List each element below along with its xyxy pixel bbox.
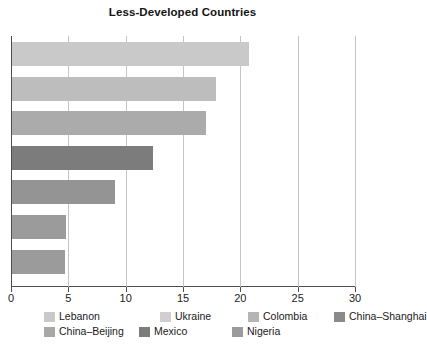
legend-swatch-icon: [160, 312, 171, 322]
bar: [12, 146, 153, 170]
bar: [12, 250, 65, 274]
legend-row: China–BeijingMexicoNigeria: [44, 326, 362, 341]
gridline: [183, 36, 184, 287]
legend-item[interactable]: Ukraine: [160, 311, 211, 322]
legend-label: China–Beijing: [59, 326, 124, 337]
legend-label: Mexico: [154, 326, 187, 337]
legend-swatch-icon: [232, 327, 243, 337]
legend-item[interactable]: Colombia: [248, 311, 307, 322]
legend-label: Lebanon: [59, 311, 100, 322]
bar: [12, 77, 216, 101]
legend-item[interactable]: Mexico: [139, 326, 187, 337]
x-axis-tick-label: 30: [349, 292, 361, 304]
legend-label: China–Shanghai: [349, 311, 427, 322]
x-axis-tick-label: 10: [120, 292, 132, 304]
gridline: [298, 36, 299, 287]
legend-swatch-icon: [334, 312, 345, 322]
legend-item[interactable]: Nigeria: [232, 326, 280, 337]
x-axis-tick-label: 15: [177, 292, 189, 304]
plot-area: [11, 36, 355, 287]
legend-label: Nigeria: [247, 326, 280, 337]
chart-title: Less-Developed Countries: [0, 6, 365, 18]
gridline: [240, 36, 241, 287]
legend-swatch-icon: [44, 327, 55, 337]
bar: [12, 111, 206, 135]
legend-swatch-icon: [44, 312, 55, 322]
bar: [12, 42, 249, 66]
legend-item[interactable]: China–Beijing: [44, 326, 124, 337]
x-axis-tick-label: 25: [292, 292, 304, 304]
legend-label: Ukraine: [175, 311, 211, 322]
x-axis-tick-label: 5: [65, 292, 71, 304]
x-axis-tick-label: 0: [8, 292, 14, 304]
legend-swatch-icon: [139, 327, 150, 337]
legend-swatch-icon: [248, 312, 259, 322]
bar: [12, 180, 115, 204]
gridline: [355, 36, 356, 287]
legend-item[interactable]: China–Shanghai: [334, 311, 427, 322]
legend-item[interactable]: Lebanon: [44, 311, 100, 322]
bar: [12, 215, 66, 239]
legend-label: Colombia: [263, 311, 307, 322]
x-axis-tick-label: 20: [234, 292, 246, 304]
chart-legend: LebanonUkraineColombiaChina–Shanghai Chi…: [44, 311, 362, 341]
legend-row: LebanonUkraineColombiaChina–Shanghai: [44, 311, 362, 326]
